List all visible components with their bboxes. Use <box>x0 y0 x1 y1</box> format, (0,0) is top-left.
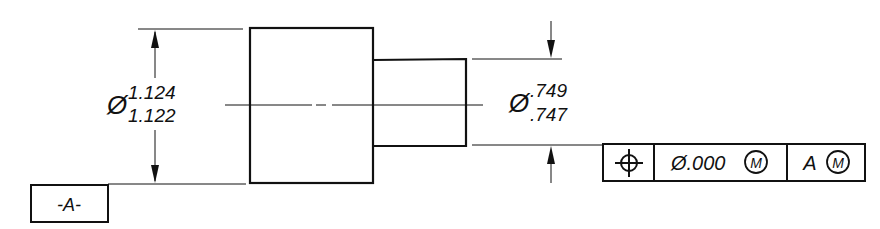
shaft-drawing: Ø 1.124 1.122 Ø .749 .747 -A- Ø.000 M A … <box>0 0 880 229</box>
fcf-datum: A <box>802 152 816 174</box>
fcf-datum-modifier: M <box>832 155 844 171</box>
arrow-up-icon <box>547 146 555 164</box>
small-cylinder <box>373 59 466 146</box>
arrow-up-icon <box>151 30 159 48</box>
datum-label: -A- <box>57 195 81 215</box>
small-diameter-lower: .747 <box>530 104 568 125</box>
large-diameter-upper: 1.124 <box>128 82 176 103</box>
fcf-tolerance: Ø.000 <box>670 152 725 174</box>
diameter-symbol-small: Ø <box>508 88 531 118</box>
arrow-down-icon <box>151 165 159 183</box>
arrow-down-icon <box>547 40 555 58</box>
large-diameter-lower: 1.122 <box>128 105 176 126</box>
position-icon <box>615 149 643 177</box>
diameter-symbol-large: Ø <box>106 90 129 120</box>
small-diameter-upper: .749 <box>530 80 567 101</box>
fcf-tolerance-modifier: M <box>750 155 762 171</box>
